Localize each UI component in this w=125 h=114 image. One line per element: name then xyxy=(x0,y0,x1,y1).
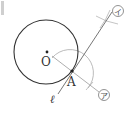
point-o xyxy=(46,51,49,54)
point-a xyxy=(70,69,73,72)
circled-mark-i: イ xyxy=(113,6,124,17)
svg-text:イ: イ xyxy=(114,8,122,17)
label-line-l: ℓ xyxy=(50,93,55,106)
corner-mark xyxy=(1,1,4,15)
tangent-construction-diagram: O A ℓ ア イ xyxy=(0,0,125,114)
svg-text:ア: ア xyxy=(100,92,108,101)
circled-mark-a: ア xyxy=(99,90,110,101)
label-o: O xyxy=(41,55,51,69)
label-a: A xyxy=(66,75,76,89)
